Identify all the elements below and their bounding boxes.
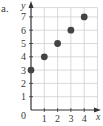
grid-lines (31, 8, 98, 110)
svg-text:1: 1 (21, 91, 26, 102)
data-point (81, 14, 88, 21)
data-point (28, 67, 35, 74)
data-point (68, 27, 75, 34)
svg-text:2: 2 (55, 113, 60, 124)
data-point (54, 40, 61, 47)
svg-text:2: 2 (21, 78, 26, 89)
svg-text:6: 6 (21, 25, 26, 36)
svg-text:4: 4 (82, 113, 87, 124)
scatter-chart: a. 12345671234 x y 0 (0, 0, 103, 126)
y-axis-label: y (20, 0, 26, 11)
svg-text:5: 5 (21, 38, 26, 49)
data-point (41, 53, 48, 60)
svg-text:1: 1 (42, 113, 47, 124)
origin-label: 0 (21, 110, 26, 121)
svg-text:4: 4 (21, 51, 26, 62)
svg-text:3: 3 (68, 113, 73, 124)
svg-text:7: 7 (21, 11, 26, 22)
x-axis-label: x (95, 111, 101, 122)
svg-text:3: 3 (21, 65, 26, 76)
problem-label: a. (1, 2, 9, 14)
